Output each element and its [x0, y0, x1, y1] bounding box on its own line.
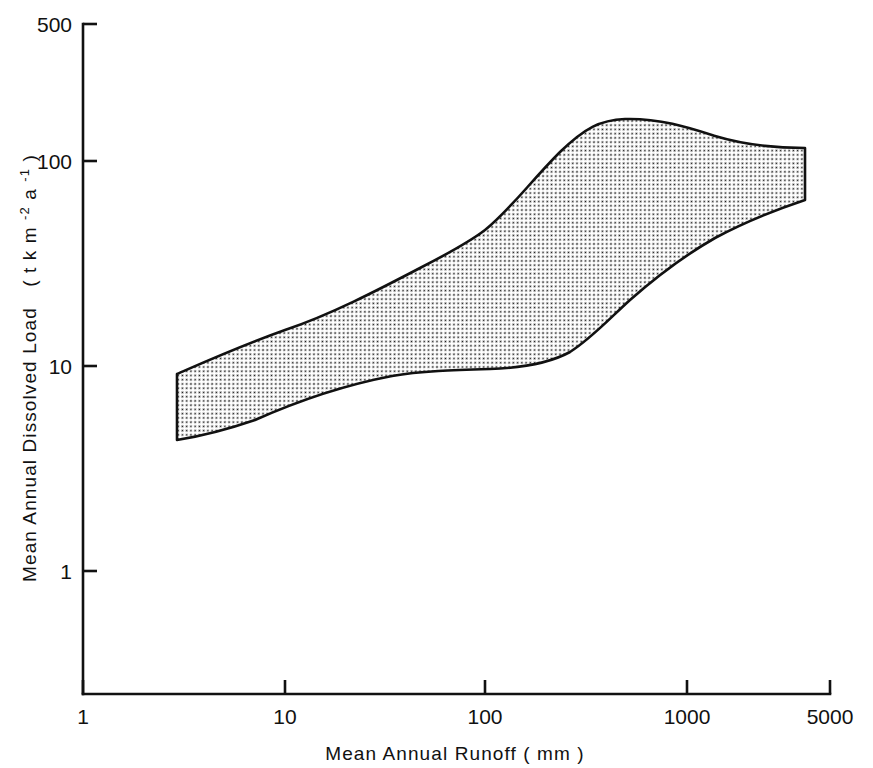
- x-tick-label-100: 100: [467, 705, 502, 728]
- x-tick-label-1: 1: [77, 705, 89, 728]
- y-axis-units-close: ): [19, 154, 40, 161]
- y-axis-units-open: ( t k m: [19, 226, 40, 286]
- y-axis-ticks: [83, 161, 97, 571]
- y-tick-label-10: 10: [49, 355, 72, 378]
- y-tick-labels: 500 100 10 1: [37, 13, 72, 583]
- y-axis-units-exp2: -1: [17, 168, 32, 182]
- x-axis-ticks: [83, 680, 687, 694]
- x-tick-label-5000: 5000: [807, 705, 854, 728]
- x-tick-labels: 1 10 100 1000 5000: [77, 705, 853, 728]
- x-tick-label-10: 10: [273, 705, 296, 728]
- x-axis-title: Mean Annual Runoff ( mm ): [325, 743, 584, 764]
- x-tick-label-1000: 1000: [664, 705, 711, 728]
- y-axis-units-exp1: -2: [17, 206, 32, 220]
- svg-text:Mean Annual Dissolved Load: Mean Annual Dissolved Load ( t k m -2 a …: [12, 154, 40, 582]
- dissolved-load-vs-runoff-chart: 500 100 10 1 1 10 100 1000 5000 Mean Ann…: [0, 0, 873, 768]
- chart-figure: 500 100 10 1 1 10 100 1000 5000 Mean Ann…: [0, 0, 873, 768]
- y-tick-label-500: 500: [37, 13, 72, 36]
- y-axis-title: Mean Annual Dissolved Load ( t k m -2 a …: [12, 154, 40, 582]
- y-axis-units-a: a: [19, 188, 40, 200]
- dissolved-load-envelope-band: [177, 119, 805, 440]
- y-axis-title-main: Mean Annual Dissolved Load: [19, 307, 40, 582]
- y-tick-label-100: 100: [37, 150, 72, 173]
- y-tick-label-1: 1: [60, 560, 72, 583]
